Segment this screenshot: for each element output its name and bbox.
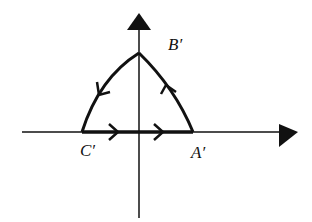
label-a-prime: A′ [190, 143, 205, 162]
contour-arc-b-to-c [82, 53, 139, 132]
contour-arc-a-to-b [139, 53, 193, 132]
label-b-prime: B′ [168, 35, 182, 54]
vertical-axis [127, 13, 151, 218]
contour-diagram: B′ C′ A′ [0, 0, 312, 222]
label-c-prime: C′ [80, 141, 95, 160]
axis-arrowhead-right-icon [279, 124, 298, 147]
axis-arrowhead-up-icon [127, 13, 151, 30]
